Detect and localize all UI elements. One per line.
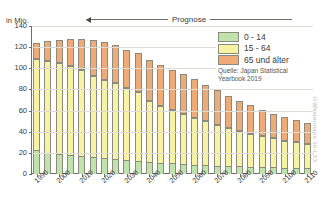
grid-line bbox=[31, 89, 313, 90]
legend-swatch-icon bbox=[218, 44, 239, 54]
bar-segment-0 bbox=[56, 154, 63, 174]
legend-item-2: 65 und älter bbox=[218, 55, 312, 65]
bar-2090 bbox=[259, 110, 266, 174]
legend-swatch-icon bbox=[218, 32, 239, 42]
bar-segment-1 bbox=[112, 83, 119, 159]
bar-segment-1 bbox=[191, 118, 198, 165]
legend-item-0: 0 - 14 bbox=[218, 32, 312, 42]
y-tick-mark bbox=[29, 132, 32, 133]
bar-segment-1 bbox=[90, 76, 97, 158]
bar-segment-2 bbox=[270, 114, 277, 139]
bar-segment-2 bbox=[214, 90, 221, 125]
bar-segment-2 bbox=[281, 117, 288, 140]
bar-segment-1 bbox=[157, 106, 164, 163]
bar-segment-1 bbox=[202, 121, 209, 165]
bar-segment-1 bbox=[247, 134, 254, 167]
bar-1995 bbox=[44, 41, 51, 174]
grid-line bbox=[31, 153, 313, 154]
bar-2040 bbox=[146, 60, 153, 174]
bar-2085 bbox=[247, 105, 254, 174]
bar-2025 bbox=[112, 45, 119, 174]
prognose-annotation: Prognose bbox=[86, 13, 292, 26]
bar-2065 bbox=[202, 85, 209, 174]
bar-segment-2 bbox=[304, 123, 311, 144]
watermark: ©Westermann 36-LXX bbox=[312, 96, 318, 163]
bar-segment-1 bbox=[236, 131, 243, 166]
bar-2075 bbox=[225, 96, 232, 174]
bar-2050 bbox=[169, 70, 176, 174]
y-tick-mark bbox=[29, 47, 32, 48]
bar-segment-1 bbox=[180, 114, 187, 164]
bar-segment-2 bbox=[56, 40, 63, 63]
bar-segment-2 bbox=[90, 40, 97, 76]
prognose-arrow-icon bbox=[86, 17, 91, 23]
grid-line bbox=[31, 111, 313, 112]
bar-2000 bbox=[56, 40, 63, 174]
bar-segment-2 bbox=[191, 79, 198, 117]
bar-2015 bbox=[90, 40, 97, 174]
bar-segment-2 bbox=[78, 39, 85, 70]
bar-segment-0 bbox=[78, 156, 85, 174]
y-tick-mark bbox=[29, 68, 32, 69]
bar-2080 bbox=[236, 101, 243, 174]
y-tick-label: 100 bbox=[14, 65, 27, 73]
bar-2105 bbox=[293, 120, 300, 174]
bar-segment-1 bbox=[259, 136, 266, 167]
y-tick-label: 140 bbox=[14, 22, 27, 30]
bar-segment-2 bbox=[112, 45, 119, 84]
y-tick-mark bbox=[29, 111, 32, 112]
bar-segment-1 bbox=[304, 144, 311, 168]
legend-item-1: 15 - 64 bbox=[218, 44, 312, 54]
bar-2045 bbox=[157, 65, 164, 174]
bar-segment-1 bbox=[101, 80, 108, 158]
legend-swatch-icon bbox=[218, 55, 239, 65]
grid-line bbox=[31, 132, 313, 133]
bar-2100 bbox=[281, 117, 288, 174]
bar-segment-2 bbox=[157, 65, 164, 106]
bar-segment-1 bbox=[293, 142, 300, 168]
bar-segment-2 bbox=[236, 101, 243, 131]
bar-segment-1 bbox=[33, 59, 40, 150]
bar-2110 bbox=[304, 123, 311, 174]
bar-segment-2 bbox=[67, 39, 74, 66]
bar-segment-1 bbox=[78, 70, 85, 156]
y-tick-label: 60 bbox=[19, 107, 27, 115]
bar-2095 bbox=[270, 114, 277, 174]
bar-segment-2 bbox=[44, 41, 51, 60]
bar-segment-2 bbox=[180, 74, 187, 114]
y-tick-label: 20 bbox=[19, 149, 27, 157]
y-tick-mark bbox=[29, 174, 32, 175]
bar-1990 bbox=[33, 43, 40, 174]
bar-segment-1 bbox=[281, 141, 288, 168]
source-note: Quelle: Japan Statistical Yearbook 2019 bbox=[218, 67, 312, 82]
y-tick-mark bbox=[29, 26, 32, 27]
y-tick-label: 120 bbox=[14, 43, 27, 51]
bar-segment-1 bbox=[225, 128, 232, 166]
bar-2060 bbox=[191, 79, 198, 174]
legend-label: 15 - 64 bbox=[244, 44, 270, 53]
bar-2020 bbox=[101, 42, 108, 174]
population-chart: in Mio. Prognose 020406080100120140 1990… bbox=[0, 0, 319, 210]
grid-line bbox=[31, 26, 313, 27]
prognose-label: Prognose bbox=[168, 13, 210, 26]
y-tick-label: 0 bbox=[23, 170, 27, 178]
legend-label: 0 - 14 bbox=[244, 33, 266, 42]
bar-segment-2 bbox=[146, 60, 153, 101]
bar-segment-1 bbox=[123, 88, 130, 160]
bar-segment-2 bbox=[33, 43, 40, 59]
bar-2035 bbox=[135, 53, 142, 174]
bar-segment-1 bbox=[56, 63, 63, 154]
bar-segment-1 bbox=[169, 110, 176, 163]
bar-segment-2 bbox=[225, 96, 232, 128]
bar-segment-2 bbox=[135, 53, 142, 93]
y-tick-mark bbox=[29, 153, 32, 154]
bar-segment-1 bbox=[135, 92, 142, 161]
y-tick-label: 80 bbox=[19, 86, 27, 94]
y-tick-label: 40 bbox=[19, 128, 27, 136]
legend: 0 - 1415 - 6465 und älter Quelle: Japan … bbox=[216, 30, 314, 83]
legend-label: 65 und älter bbox=[244, 56, 289, 65]
bar-segment-1 bbox=[44, 61, 51, 153]
y-tick-mark bbox=[29, 89, 32, 90]
